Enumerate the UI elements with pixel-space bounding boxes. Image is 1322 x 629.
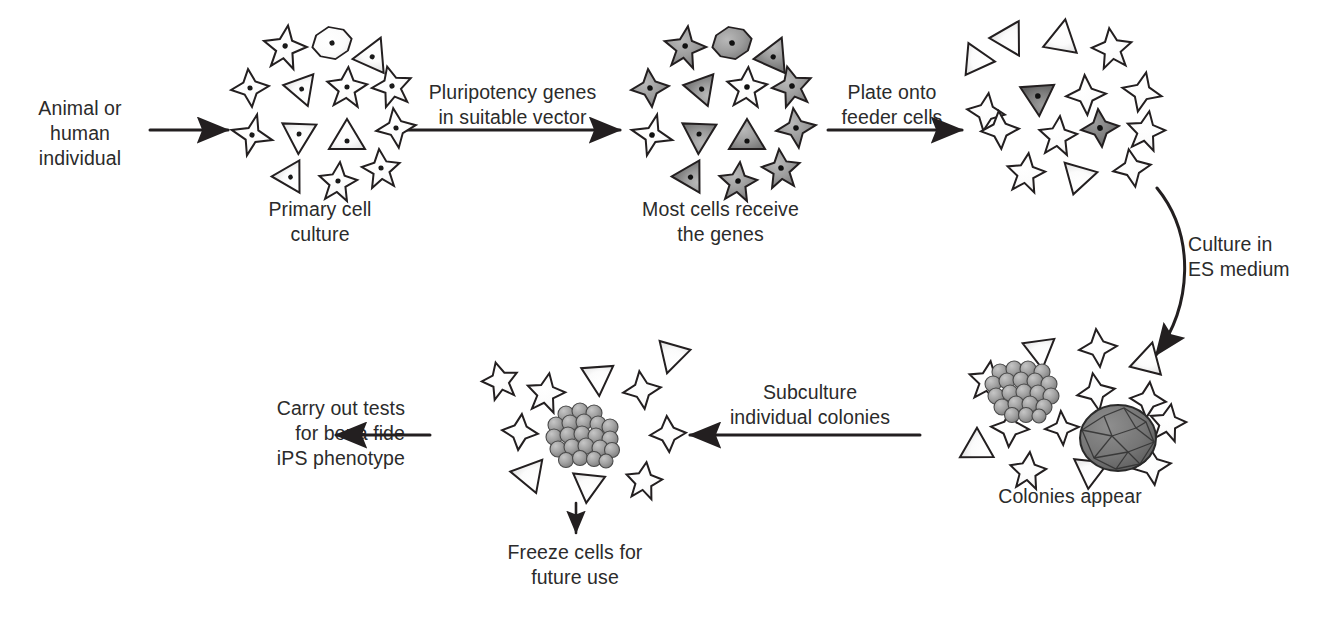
panel-feeder-plate (965, 16, 1168, 199)
panel-primary-cell-culture (227, 23, 419, 202)
colony-sphere-mass-subcultured (546, 403, 620, 468)
diagram-canvas: Animal or human individual Primary cell … (0, 0, 1322, 629)
diagram-graphics (0, 0, 1322, 629)
panel-colonies-appear (960, 327, 1189, 491)
colony-faceted-dark (1080, 405, 1156, 471)
colony-sphere-mass (985, 361, 1059, 423)
panel-transfected-cells (627, 23, 819, 202)
panel-subcultured-colony (478, 341, 690, 505)
arrow-culture-es-medium (1156, 188, 1185, 355)
